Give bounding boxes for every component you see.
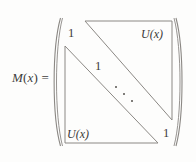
diagonal-ellipsis-icon — [114, 84, 140, 106]
entry-top-left-one: 1 — [68, 27, 74, 40]
entry-middle-one: 1 — [95, 60, 101, 73]
entry-bottom-right-one: 1 — [163, 127, 169, 140]
entry-top-right-block: U(x) — [141, 28, 163, 40]
matrix-figure: M(x) = 1 U(x) 1 U(x) 1 — [0, 0, 196, 162]
left-parenthesis-bracket-inner — [57, 18, 63, 146]
right-parenthesis-bracket — [176, 18, 182, 146]
left-parenthesis-bracket — [54, 18, 60, 146]
ellipsis-dot — [115, 86, 117, 88]
entry-bottom-left-block: U(x) — [67, 128, 89, 140]
ellipsis-dot — [131, 100, 133, 102]
ellipsis-dot — [123, 93, 125, 95]
